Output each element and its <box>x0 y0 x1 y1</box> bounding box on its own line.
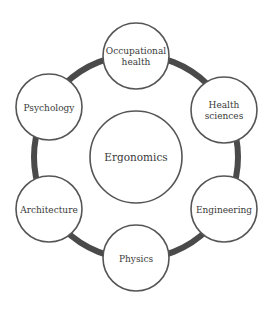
node-circle <box>103 23 169 89</box>
node-physics: Physics <box>103 225 169 291</box>
node-label: Physics <box>119 254 153 264</box>
node-label: health <box>122 57 151 67</box>
center-node-ergonomics: Ergonomics <box>90 111 182 203</box>
node-label: Psychology <box>24 103 76 113</box>
node-circle <box>191 77 257 143</box>
node-architecture: Architecture <box>16 176 82 242</box>
ergonomics-diagram: Ergonomics OccupationalhealthHealthscien… <box>0 0 272 310</box>
node-occupational-health: Occupationalhealth <box>103 23 169 89</box>
node-health-sciences: Healthsciences <box>191 77 257 143</box>
node-label: Health <box>209 100 240 110</box>
node-label: sciences <box>205 111 244 121</box>
node-label: Architecture <box>19 205 78 215</box>
node-engineering: Engineering <box>191 176 257 242</box>
node-psychology: Psychology <box>16 74 82 140</box>
center-label: Ergonomics <box>104 151 167 163</box>
node-label: Engineering <box>196 205 252 215</box>
node-label: Occupational <box>106 46 166 56</box>
